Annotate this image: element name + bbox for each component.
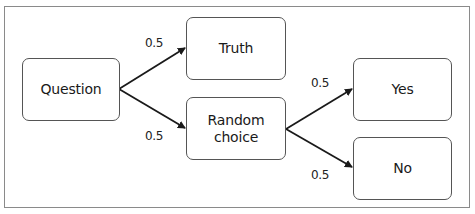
edge-question-random-choice [119, 89, 185, 128]
node-yes-label: Yes [392, 81, 414, 98]
edge-label-question-truth: 0.5 [145, 36, 163, 50]
node-question-label: Question [40, 81, 101, 98]
node-no: No [353, 137, 452, 200]
node-truth-label: Truth [219, 40, 254, 57]
node-truth: Truth [186, 17, 286, 80]
node-yes: Yes [353, 58, 452, 121]
node-no-label: No [393, 160, 412, 177]
edge-label-random-choice-no: 0.5 [311, 168, 329, 182]
node-question: Question [22, 58, 120, 121]
node-random-choice: Random choice [186, 97, 286, 160]
edge-question-truth [119, 48, 185, 89]
edge-random-choice-no [286, 129, 352, 167]
edge-label-random-choice-yes: 0.5 [311, 76, 329, 90]
edge-random-choice-yes [286, 89, 352, 129]
node-random-choice-label: Random choice [208, 112, 265, 146]
edge-label-question-random-choice: 0.5 [145, 129, 163, 143]
